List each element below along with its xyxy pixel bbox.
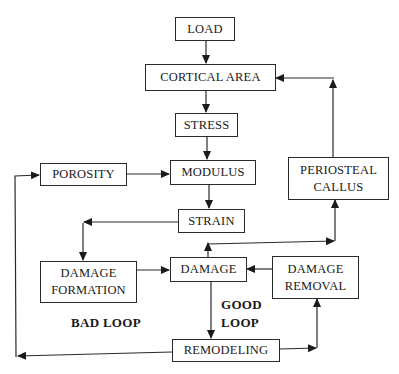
node-damage-formation: DAMAGE FORMATION <box>40 261 137 303</box>
node-damage-removal: DAMAGE REMOVAL <box>272 256 359 299</box>
node-porosity: POROSITY <box>40 163 127 186</box>
arrow-remodeling-to-porosity-v <box>15 175 39 357</box>
arrow-remodeling-to-porosity-h <box>18 352 172 356</box>
node-periosteal-callus: PERIOSTEAL CALLUS <box>288 157 389 200</box>
node-stress: STRESS <box>175 113 238 137</box>
node-modulus: MODULUS <box>170 160 256 185</box>
node-remodeling: REMODELING <box>172 339 280 362</box>
node-cortical-area: CORTICAL AREA <box>145 64 276 91</box>
label-good-loop: GOOD LOOP <box>221 296 262 332</box>
arrow-damage-to-callus-h <box>208 241 334 244</box>
node-damage: DAMAGE <box>170 257 247 282</box>
arrow-remodeling-to-removal-h <box>279 348 316 349</box>
node-strain: STRAIN <box>178 209 245 233</box>
node-load: LOAD <box>175 17 235 41</box>
label-bad-loop: BAD LOOP <box>71 314 141 332</box>
